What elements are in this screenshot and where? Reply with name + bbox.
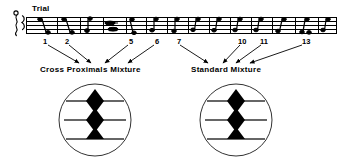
trial-number-6: 6: [155, 38, 159, 46]
inset-caption-standard-mixture: Standard Mixture: [191, 66, 261, 74]
brace-clef-icon: [14, 11, 24, 36]
inset-standard-mixture: [200, 84, 272, 156]
eighth-note-icon: [85, 17, 93, 33]
trial-number-1: 1: [43, 38, 47, 46]
leader-arrow-5: [105, 45, 128, 63]
leader-arrow-10: [223, 45, 240, 63]
trial-number-13: 13: [302, 38, 310, 46]
leader-arrow-6: [128, 45, 154, 63]
leader-arrow-7: [180, 45, 208, 63]
inset-cross-proximals-mixture: [59, 84, 131, 156]
trial-sequence-figure: Trial: [0, 0, 341, 158]
leader-arrow-2: [69, 45, 91, 63]
trial-number-7: 7: [177, 38, 181, 46]
triangle-stimuli: [227, 89, 245, 139]
trial-number-10: 10: [238, 38, 246, 46]
trial-number-5: 5: [129, 38, 133, 46]
triangle-stimuli: [86, 89, 104, 139]
figure-canvas: [0, 0, 341, 158]
leader-arrow-1: [48, 45, 79, 63]
trial-axis-label: Trial: [32, 5, 49, 13]
eighth-note-icon: [130, 18, 137, 35]
trial-number-11: 11: [260, 38, 268, 46]
trial-number-2: 2: [65, 38, 69, 46]
inset-caption-cross-proximals-mixture: Cross Proximals Mixture: [40, 66, 141, 74]
leader-arrows: [48, 45, 302, 63]
